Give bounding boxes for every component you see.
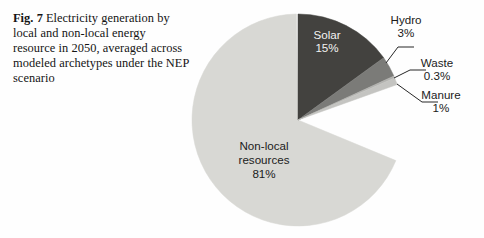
- pie-label-manure-value: 1%: [408, 101, 474, 114]
- pie-label-solar-name: Solar: [301, 28, 353, 41]
- pie-label-non-local-resources: Non-local resources 81%: [216, 139, 312, 182]
- pie-label-hydro-value: 3%: [382, 26, 430, 39]
- pie-label-hydro-name: Hydro: [382, 13, 430, 26]
- figure-number: Fig. 7: [13, 11, 43, 25]
- pie-label-non-local-value: 81%: [216, 167, 312, 181]
- pie-label-waste-value: 0.3%: [410, 69, 464, 82]
- pie-chart: Solar 15% Non-local resources 81% Hydro …: [186, 0, 484, 238]
- pie-label-manure: Manure 1%: [408, 88, 474, 115]
- figure-caption: Fig. 7Electricity generation by local an…: [13, 11, 191, 86]
- pie-label-hydro: Hydro 3%: [382, 13, 430, 40]
- pie-label-non-local-line1: Non-local: [216, 139, 312, 153]
- pie-label-non-local-line2: resources: [216, 153, 312, 167]
- pie-label-solar: Solar 15%: [301, 28, 353, 55]
- figure-container: Fig. 7Electricity generation by local an…: [0, 0, 484, 238]
- pie-label-solar-value: 15%: [301, 41, 353, 54]
- pie-label-manure-name: Manure: [408, 88, 474, 101]
- pie-label-waste: Waste 0.3%: [410, 56, 464, 83]
- pie-label-waste-name: Waste: [410, 56, 464, 69]
